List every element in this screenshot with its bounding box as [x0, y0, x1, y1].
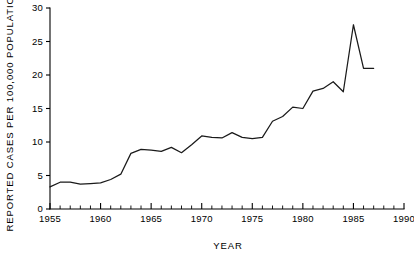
y-tick-label: 15 — [32, 103, 43, 114]
x-tick-label: 1985 — [342, 213, 364, 224]
x-tick-label: 1975 — [241, 213, 263, 224]
y-tick-label: 5 — [38, 170, 43, 181]
y-tick-label: 20 — [32, 69, 43, 80]
y-tick-label: 30 — [32, 2, 43, 13]
y-axis-title: REPORTED CASES PER 100,000 POPULATION — [4, 0, 15, 232]
x-axis-ticks — [50, 203, 404, 209]
y-tick-label: 10 — [32, 136, 43, 147]
data-series-line — [50, 25, 374, 187]
y-tick-label: 25 — [32, 36, 43, 47]
x-tick-label: 1965 — [140, 213, 162, 224]
x-tick-label: 1980 — [292, 213, 314, 224]
x-axis-tick-labels: 19551960196519701975198019851990 — [39, 213, 414, 224]
x-tick-label: 1960 — [90, 213, 112, 224]
figure-caption-strip — [0, 249, 414, 256]
y-axis-tick-labels: 051015202530 — [32, 2, 43, 214]
x-tick-label: 1970 — [191, 213, 213, 224]
line-chart: 051015202530 195519601965197019751980198… — [0, 0, 414, 256]
x-tick-label: 1990 — [393, 213, 414, 224]
x-tick-label: 1955 — [39, 213, 61, 224]
y-axis-ticks — [46, 8, 50, 209]
chart-figure: 051015202530 195519601965197019751980198… — [0, 0, 414, 256]
